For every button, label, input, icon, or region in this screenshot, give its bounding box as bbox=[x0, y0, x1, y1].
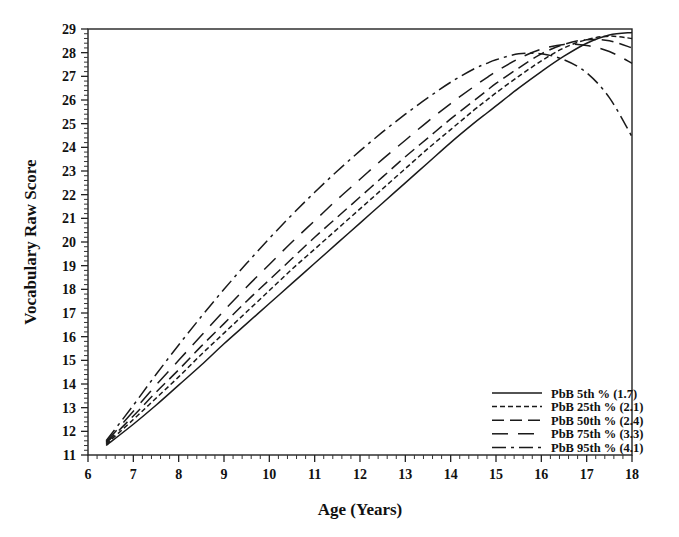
y-tick-label: 23 bbox=[62, 164, 76, 179]
y-tick-label: 13 bbox=[62, 401, 76, 416]
y-tick-label: 26 bbox=[62, 93, 76, 108]
x-tick-label: 14 bbox=[444, 467, 458, 482]
legend-label-5th: PbB 5th % (1.7) bbox=[551, 387, 637, 401]
x-tick-label: 12 bbox=[353, 467, 367, 482]
y-tick-label: 21 bbox=[62, 211, 76, 226]
y-tick-label: 29 bbox=[62, 22, 76, 37]
x-tick-label: 10 bbox=[262, 467, 276, 482]
chart-figure: 6789101112131415161718 11121314151617181… bbox=[0, 0, 679, 537]
x-axis-label: Age (Years) bbox=[318, 500, 403, 519]
legend-label-75th: PbB 75th % (3.3) bbox=[551, 427, 643, 441]
x-tick-label: 11 bbox=[308, 467, 321, 482]
y-tick-label: 25 bbox=[62, 117, 76, 132]
y-tick-label: 11 bbox=[63, 448, 76, 463]
x-tick-label: 16 bbox=[534, 467, 548, 482]
y-tick-label: 15 bbox=[62, 353, 76, 368]
x-tick-label: 6 bbox=[85, 467, 92, 482]
x-tick-label: 18 bbox=[625, 467, 639, 482]
vocabulary-score-line-chart: 6789101112131415161718 11121314151617181… bbox=[0, 0, 679, 537]
x-tick-label: 17 bbox=[580, 467, 594, 482]
y-tick-label: 14 bbox=[62, 377, 76, 392]
y-tick-label: 16 bbox=[62, 330, 76, 345]
y-tick-label: 24 bbox=[62, 140, 76, 155]
y-tick-label: 19 bbox=[62, 259, 76, 274]
legend-label-50th: PbB 50th % (2.4) bbox=[551, 414, 643, 428]
y-axis-label: Vocabulary Raw Score bbox=[21, 159, 40, 325]
y-tick-label: 18 bbox=[62, 282, 76, 297]
y-tick-label: 22 bbox=[62, 188, 76, 203]
y-tick-label: 12 bbox=[62, 424, 76, 439]
y-tick-label: 28 bbox=[62, 46, 76, 61]
x-tick-label: 13 bbox=[398, 467, 412, 482]
legend-label-25th: PbB 25th % (2.1) bbox=[551, 400, 643, 414]
x-tick-label: 9 bbox=[221, 467, 228, 482]
x-tick-label: 7 bbox=[130, 467, 137, 482]
y-tick-label: 20 bbox=[62, 235, 76, 250]
y-tick-label: 17 bbox=[62, 306, 76, 321]
y-tick-label: 27 bbox=[62, 69, 76, 84]
x-tick-label: 15 bbox=[489, 467, 503, 482]
legend-label-95th: PbB 95th % (4.1) bbox=[551, 441, 643, 455]
x-tick-label: 8 bbox=[175, 467, 182, 482]
